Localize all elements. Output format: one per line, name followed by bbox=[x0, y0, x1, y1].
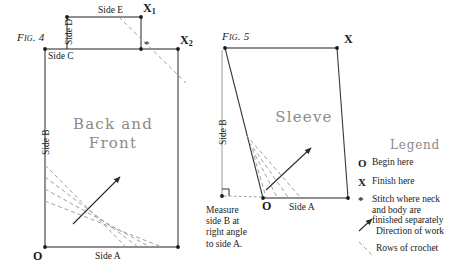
fig4-tag: Fig. 4 bbox=[17, 32, 44, 43]
fig5-measure-note: Measure side B at right angle to side A. bbox=[206, 205, 262, 250]
fig4-label-side-d: Side D bbox=[65, 19, 75, 45]
legend-text-star-stitch-line-2: finished separately bbox=[372, 215, 444, 226]
fig5-piece-name: Sleeve bbox=[264, 108, 344, 127]
legend-item-star-stitch: * Stitch where neck and body are finishe… bbox=[358, 194, 473, 226]
legend-item-finish-here: X Finish here bbox=[358, 176, 470, 188]
fig4-marker-x1: X1 bbox=[143, 2, 156, 16]
legend-text-finish-here-line-0: Finish here bbox=[372, 176, 414, 187]
fig4-dashed-rows bbox=[45, 165, 162, 247]
fig4-neck-dashed-rows bbox=[119, 17, 186, 83]
legend-text-begin-here-line-0: Begin here bbox=[372, 157, 413, 168]
fig5-marker-origin: O bbox=[262, 200, 271, 212]
fig5-measure-note-line-1: side B at bbox=[206, 216, 262, 227]
fig5-marker-x: X bbox=[344, 33, 353, 45]
legend-item-direction-of-work: Direction of work bbox=[376, 226, 475, 237]
fig4-marker-x2: X2 bbox=[180, 34, 193, 48]
fig4-label-side-a: Side A bbox=[95, 252, 121, 262]
legend-text-star-stitch-line-0: Stitch where neck bbox=[372, 194, 444, 205]
legend-symbol-o: O bbox=[358, 157, 372, 169]
legend-symbol-star: * bbox=[358, 194, 372, 206]
legend-text-finish-here: Finish here bbox=[372, 176, 414, 187]
fig4-label-side-b: Side B bbox=[42, 129, 52, 155]
legend-text-star-stitch-line-1: and body are bbox=[372, 205, 444, 216]
fig4-marker-origin: O bbox=[33, 250, 42, 262]
fig5-tag: Fig. 5 bbox=[222, 31, 249, 42]
legend-text-rows-of-crochet-line-0: Rows of crochet bbox=[376, 243, 438, 254]
legend-item-rows-of-crochet: Rows of crochet bbox=[376, 243, 475, 254]
diagram-page: Fig. 4 Side C Side E Side D Side B Side … bbox=[0, 0, 475, 271]
legend-item-begin-here: O Begin here bbox=[358, 157, 470, 169]
legend-text-star-stitch: Stitch where neck and body are finished … bbox=[372, 194, 444, 226]
legend-title: Legend bbox=[390, 139, 440, 151]
fig5-label-side-b: Side B bbox=[219, 119, 229, 145]
fig4-piece-name-line1: Back and bbox=[63, 115, 163, 134]
fig4-marker-star: * bbox=[144, 39, 150, 50]
fig5-measure-note-line-2: right angle bbox=[206, 227, 262, 238]
legend-dashed-line-icon bbox=[359, 242, 372, 255]
fig5-label-side-a: Side A bbox=[289, 203, 315, 213]
fig4-piece-name-line2: Front bbox=[63, 134, 163, 153]
legend-symbol-x: X bbox=[358, 176, 372, 188]
legend-text-rows-of-crochet: Rows of crochet bbox=[376, 243, 438, 254]
fig4-label-side-e: Side E bbox=[98, 6, 123, 16]
fig4-piece-name: Back and Front bbox=[63, 115, 163, 153]
fig4-marker-x2-subscript: 2 bbox=[189, 39, 193, 48]
fig4-marker-x2-letter: X bbox=[180, 33, 189, 47]
legend-text-direction-of-work-line-0: Direction of work bbox=[376, 226, 444, 237]
fig4-marker-x1-subscript: 1 bbox=[152, 7, 156, 16]
legend-text-direction-of-work: Direction of work bbox=[376, 226, 444, 237]
fig5-measure-note-line-3: to side A. bbox=[206, 239, 262, 250]
fig4-marker-x1-letter: X bbox=[143, 1, 152, 15]
fig4-label-side-c: Side C bbox=[48, 52, 74, 62]
fig5-measure-note-line-0: Measure bbox=[206, 205, 262, 216]
legend-text-begin-here: Begin here bbox=[372, 157, 413, 168]
